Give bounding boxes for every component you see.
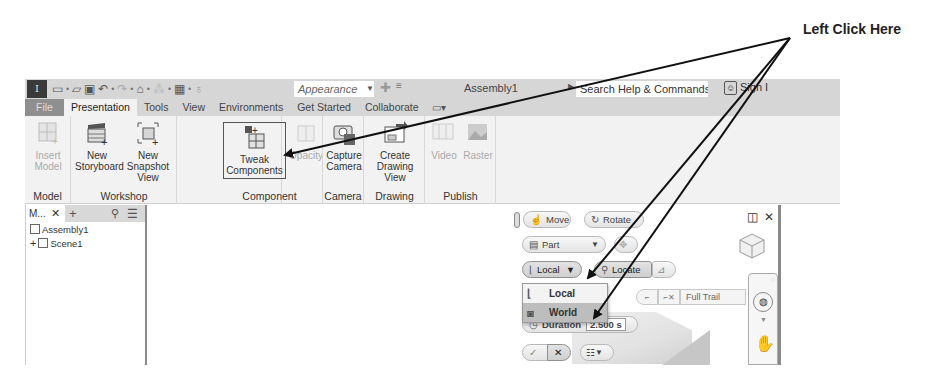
new-icon[interactable]: ▭ <box>52 81 63 97</box>
storyboard-icon: + <box>84 120 110 146</box>
redo-icon[interactable]: ↷ <box>117 81 127 97</box>
user-icon[interactable]: ☺ <box>724 81 737 95</box>
update-dropdown-icon[interactable]: • <box>168 84 171 94</box>
app-logo[interactable]: I <box>27 80 47 98</box>
close-icon[interactable]: ✕ <box>764 210 774 224</box>
chevron-down-icon[interactable]: ▼ <box>366 81 374 97</box>
close-icon[interactable]: ✕ <box>51 207 65 220</box>
appearance-icon[interactable]: ♁ <box>194 81 203 97</box>
search-icon[interactable]: ⚲ <box>111 207 119 220</box>
add-browser-button[interactable]: + ⚲ ☰ <box>65 205 145 222</box>
capture-camera-button[interactable]: Capture Camera <box>323 120 365 172</box>
search-expand-icon[interactable]: ▶ <box>568 82 574 91</box>
local-label: Local <box>537 264 560 275</box>
expand-icon[interactable]: + <box>30 237 36 249</box>
viewcube[interactable] <box>738 232 766 260</box>
move-label: Move <box>546 214 569 225</box>
material-icon[interactable]: ▦ <box>174 81 185 97</box>
save-icon[interactable]: ▣ <box>84 81 95 97</box>
chevron-down-icon[interactable]: ▼ <box>760 316 767 323</box>
undo-dropdown-icon[interactable]: • <box>111 84 114 94</box>
trail-mode-select[interactable]: Full Trail <box>680 289 746 305</box>
home-dropdown-icon[interactable]: • <box>147 84 150 94</box>
move-button[interactable]: ☝Move <box>523 211 571 228</box>
insert-model-icon: + <box>35 120 61 146</box>
undo-icon[interactable]: ↶ <box>98 81 108 97</box>
chevron-down-icon[interactable]: ▼ <box>566 265 575 275</box>
window-layout-icon[interactable]: ◫ <box>747 210 758 224</box>
adjust-icon[interactable]: ✚ <box>380 80 391 95</box>
tree-item-scene[interactable]: + Scene1 <box>26 236 145 250</box>
raster-button[interactable]: Raster <box>461 120 495 161</box>
viewport-controls: ◫ ✕ <box>747 210 774 224</box>
snapshot-icon: + <box>135 120 161 146</box>
ucs-button[interactable]: ⊿ <box>652 261 676 278</box>
material-dropdown-icon[interactable]: • <box>188 84 191 94</box>
capture-line1: Capture <box>323 150 365 161</box>
opacity-button[interactable]: Opacity <box>288 120 324 161</box>
move-icon: ☝ <box>530 214 542 225</box>
minitoolbar-grip[interactable] <box>514 212 520 228</box>
rotate-icon: ↻ <box>591 214 599 225</box>
panel-title-workshop: Workshop <box>72 190 176 202</box>
part-icon: ▤ <box>529 239 538 250</box>
plus-icon[interactable]: + <box>69 206 77 221</box>
open-icon[interactable]: ▱ <box>72 81 81 97</box>
tweak-line2: Components <box>225 165 284 176</box>
tab-get-started[interactable]: Get Started <box>290 99 358 116</box>
ribbon-display-toggle-icon[interactable]: ▭▾ <box>426 99 452 116</box>
browser-title[interactable]: M... <box>26 208 51 219</box>
trail-icon: ⌐ <box>645 293 650 302</box>
rotate-button[interactable]: ↻Rotate <box>584 211 644 228</box>
create-drawing-view-button[interactable]: Create Drawing View <box>365 120 425 183</box>
graphics-window[interactable] <box>149 205 840 365</box>
new-snapshot-view-button[interactable]: + New Snapshot View <box>120 120 176 183</box>
tweak-line1: Tweak <box>225 154 284 165</box>
appearance-select[interactable]: Appearance <box>294 81 374 97</box>
pivot-button[interactable]: ✥ <box>614 236 638 253</box>
customize-icon[interactable]: ≡ <box>396 80 402 91</box>
dropdown-item-local[interactable]: ⌊ Local <box>523 284 607 303</box>
pan-hand-icon[interactable]: ✋ <box>755 334 775 353</box>
rotate-label: Rotate <box>603 214 631 225</box>
locate-button[interactable]: ⚲Locate <box>594 261 652 278</box>
menu-icon[interactable]: ☰ <box>127 207 138 221</box>
steering-wheel-icon[interactable]: ◍ <box>753 292 773 312</box>
new-storyboard-button[interactable]: + New Storyboard <box>75 120 119 172</box>
tab-collaborate[interactable]: Collaborate <box>358 99 426 116</box>
redo-dropdown-icon[interactable]: • <box>130 84 133 94</box>
tab-presentation[interactable]: Presentation <box>64 99 137 116</box>
update-icon[interactable]: ⁂ <box>153 81 165 97</box>
sign-in-link[interactable]: Sign I <box>740 81 768 93</box>
tab-tools[interactable]: Tools <box>137 99 176 116</box>
capture-line2: Camera <box>323 161 365 172</box>
home-icon[interactable]: ⌂ <box>136 81 143 97</box>
panel-title-camera: Camera <box>323 190 363 202</box>
tab-view[interactable]: View <box>175 99 212 116</box>
ok-button[interactable]: ✓ <box>522 344 548 361</box>
local-coordinate-select[interactable]: ⌊Local ▼ <box>522 261 582 278</box>
insert-model-button[interactable]: + Insert Model <box>25 120 71 172</box>
tab-file[interactable]: File <box>25 99 64 116</box>
search-input[interactable]: Search Help & Commands... <box>576 81 708 97</box>
trail-on-button[interactable]: ⌐ <box>636 289 658 305</box>
tab-environments[interactable]: Environments <box>212 99 290 116</box>
panel-workshop: + New Storyboard + New Snapshot View Wor… <box>72 116 177 204</box>
close-icon: ✕ <box>554 347 562 358</box>
part-select[interactable]: ▤Part ▼ <box>522 236 606 253</box>
locate-label: Locate <box>612 264 641 275</box>
new-dropdown-icon[interactable]: • <box>66 84 69 94</box>
chevron-down-icon: ▼ <box>591 240 599 249</box>
tree-item-assembly[interactable]: Assembly1 <box>26 222 145 236</box>
video-button[interactable]: Video <box>428 120 460 161</box>
drawing-view-icon <box>382 120 408 146</box>
navbar-options-icon[interactable]: ◌ <box>771 276 775 283</box>
tweak-components-button[interactable]: + Tweak Components <box>223 122 286 179</box>
options-menu-button[interactable]: ☷▼ <box>580 344 614 361</box>
panel-drawing: Create Drawing View Drawing <box>365 116 425 204</box>
local-axis-icon: ⌊ <box>529 264 533 275</box>
dropdown-item-world[interactable]: ◙ World <box>523 303 607 322</box>
ucs-icon: ⊿ <box>657 264 665 275</box>
cancel-button[interactable]: ✕ <box>547 344 571 361</box>
trail-off-button[interactable]: ⌐✕ <box>658 289 680 305</box>
